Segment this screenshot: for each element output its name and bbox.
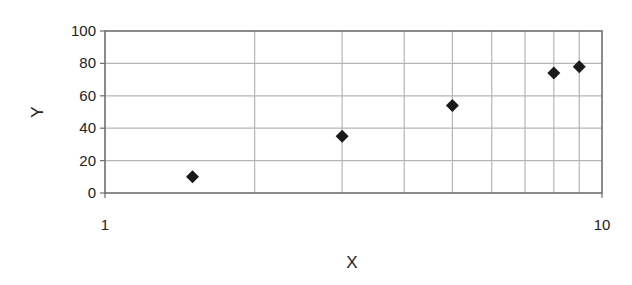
plot-area <box>105 31 602 193</box>
diamond-marker <box>446 99 459 112</box>
y-tick-label: 0 <box>88 184 96 201</box>
y-tick-label: 40 <box>79 119 96 136</box>
diamond-marker <box>336 130 349 143</box>
gridlines <box>105 31 602 193</box>
data-points <box>186 60 586 183</box>
y-axis-title: Y <box>28 106 47 117</box>
scatter-chart: 020406080100 110 X Y <box>0 0 632 285</box>
y-axis-ticks: 020406080100 <box>71 22 105 201</box>
x-tick-label: 10 <box>594 216 611 233</box>
diamond-marker <box>186 170 199 183</box>
diamond-marker <box>573 60 586 73</box>
y-tick-label: 20 <box>79 152 96 169</box>
y-tick-label: 100 <box>71 22 96 39</box>
x-tick-label: 1 <box>101 216 109 233</box>
diamond-marker <box>547 67 560 80</box>
x-axis-title: X <box>346 253 357 272</box>
x-axis-ticks: 110 <box>101 193 611 233</box>
y-tick-label: 60 <box>79 87 96 104</box>
y-tick-label: 80 <box>79 54 96 71</box>
